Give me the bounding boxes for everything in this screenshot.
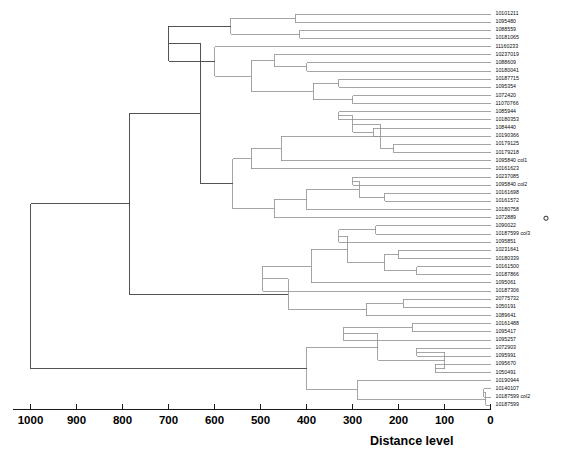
- dendrogram-leaf-label: 10187599 col2: [496, 394, 531, 399]
- dendrogram-leaf-label: 10187599: [496, 403, 519, 408]
- dendrogram-leaf-label: 10231641: [496, 248, 519, 253]
- outlier-circle-marker: [544, 216, 548, 220]
- dendrogram-leaf-label: 10187306: [496, 288, 519, 293]
- x-axis-tick-label: 1000: [18, 414, 44, 426]
- dendrogram-leaf-label: 10179125: [496, 142, 519, 147]
- dendrogram-plot: 1010121110954801088559101810651116023310…: [0, 0, 564, 460]
- dendrogram-leaf-label: 10181065: [496, 36, 519, 41]
- dendrogram-leaf-label: 1072889: [496, 215, 517, 220]
- dendrogram-leaf-label: 10161698: [496, 191, 519, 196]
- dendrogram-leaf-label: 1088559: [496, 28, 517, 33]
- dendrogram-leaf-label: 1089641: [496, 313, 517, 318]
- dendrogram-leaf-label: 10237019: [496, 52, 519, 57]
- dendrogram-leaf-label: 10187715: [496, 77, 519, 82]
- dendrogram-leaf-label: 1095851: [496, 240, 517, 245]
- x-axis-tick-label: 900: [67, 414, 86, 426]
- dendrogram-leaf-label: 10180758: [496, 207, 519, 212]
- dendrogram-leaf-label: 10237085: [496, 174, 519, 179]
- dendrogram-leaf-label: 1090022: [496, 223, 517, 228]
- x-axis-tick-label: 700: [159, 414, 178, 426]
- dendrogram-canvas: [0, 0, 564, 460]
- dendrogram-leaf-label: 1050491: [496, 370, 517, 375]
- dendrogram-leaf-label: 1095061: [496, 280, 517, 285]
- dendrogram-leaf-label: 1095670: [496, 362, 517, 367]
- dendrogram-leaf-label: 1095991: [496, 354, 517, 359]
- dendrogram-leaf-label: 1072903: [496, 346, 517, 351]
- dendrogram-leaf-label: 1088609: [496, 60, 517, 65]
- dendrogram-leaf-label: 10187866: [496, 272, 519, 277]
- dendrogram-leaf-label: 10190944: [496, 378, 519, 383]
- dendrogram-leaf-label: 1084440: [496, 125, 517, 130]
- dendrogram-leaf-label: 10161572: [496, 199, 519, 204]
- x-axis-tick-label: 400: [297, 414, 316, 426]
- dendrogram-leaf-label: 10187599 col3: [496, 231, 531, 236]
- dendrogram-leaf-label: 1095840 col2: [496, 183, 528, 188]
- x-axis-tick-label: 800: [113, 414, 132, 426]
- x-axis-tick-label: 100: [435, 414, 454, 426]
- dendrogram-leaf-label: 10179218: [496, 150, 519, 155]
- x-axis-title: Distance level: [370, 434, 453, 448]
- x-axis-tick-label: 600: [205, 414, 224, 426]
- dendrogram-leaf-label: 1050191: [496, 305, 517, 310]
- dendrogram-leaf-label: 20775732: [496, 297, 519, 302]
- dendrogram-leaf-label: 10161500: [496, 264, 519, 269]
- dendrogram-leaf-label: 10161623: [496, 166, 519, 171]
- dendrogram-leaf-label: 10190366: [496, 134, 519, 139]
- dendrogram-leaf-label: 10101211: [496, 11, 519, 16]
- dendrogram-leaf-label: 1095354: [496, 85, 517, 90]
- dendrogram-leaf-label: 1085944: [496, 109, 517, 114]
- dendrogram-leaf-label: 1095840 col1: [496, 158, 528, 163]
- dendrogram-leaf-label: 11160233: [496, 44, 519, 49]
- dendrogram-leaf-label: 10180041: [496, 68, 519, 73]
- dendrogram-leaf-label: 10180339: [496, 256, 519, 261]
- x-axis-tick-label: 300: [343, 414, 362, 426]
- dendrogram-leaf-label: 10140107: [496, 386, 519, 391]
- x-axis-tick-label: 500: [251, 414, 270, 426]
- x-axis-tick-label: 200: [389, 414, 408, 426]
- dendrogram-leaf-label: 1095257: [496, 337, 517, 342]
- dendrogram-leaf-label: 10180353: [496, 117, 519, 122]
- dendrogram-leaf-label: 11070766: [496, 101, 519, 106]
- dendrogram-leaf-label: 1095480: [496, 20, 517, 25]
- dendrogram-leaf-label: 1095417: [496, 329, 517, 334]
- dendrogram-leaf-label: 1072420: [496, 93, 517, 98]
- x-axis-tick-label: 0: [487, 414, 493, 426]
- dendrogram-leaf-label: 10161488: [496, 321, 519, 326]
